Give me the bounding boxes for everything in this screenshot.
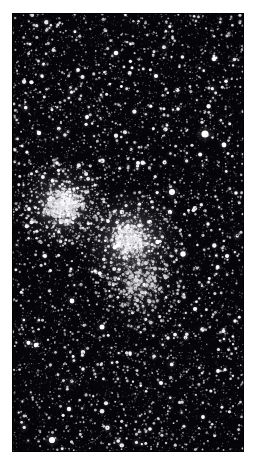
star-field-image (12, 13, 244, 452)
star-field-canvas (12, 13, 244, 452)
photographic-plate-page: Double Cluster star field Dense black-an… (0, 0, 255, 463)
